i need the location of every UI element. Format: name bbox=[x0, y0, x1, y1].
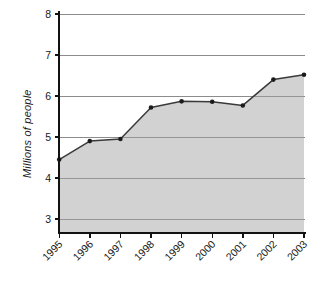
data-point bbox=[241, 103, 246, 108]
y-tick-label: 8 bbox=[45, 8, 51, 20]
data-point bbox=[210, 99, 215, 104]
data-point bbox=[302, 72, 307, 77]
y-tick-label: 5 bbox=[45, 131, 51, 143]
data-point bbox=[271, 77, 276, 82]
y-axis-title: Millions of people bbox=[21, 89, 33, 178]
y-tick-label: 4 bbox=[45, 172, 51, 184]
chart-figure: 345678 199519961997199819992000200120022… bbox=[0, 0, 324, 289]
y-tick-label: 3 bbox=[45, 213, 51, 225]
y-tick-label: 6 bbox=[45, 90, 51, 102]
data-point bbox=[179, 99, 184, 104]
y-tick-label: 7 bbox=[45, 49, 51, 61]
data-point bbox=[118, 137, 123, 142]
data-point bbox=[88, 139, 93, 144]
data-point bbox=[149, 105, 154, 110]
area-chart: 345678 199519961997199819992000200120022… bbox=[0, 0, 324, 289]
